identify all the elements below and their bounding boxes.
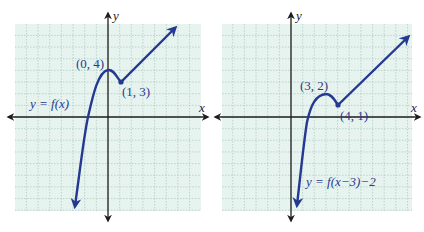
right-min-label: (4, 1) bbox=[340, 108, 368, 123]
left-x-axis-label: x bbox=[198, 100, 205, 115]
left-y-axis-label: y bbox=[111, 8, 119, 23]
right-max-label: (3, 2) bbox=[300, 78, 328, 93]
left-min-label: (1, 3) bbox=[122, 84, 150, 99]
left-max-label: (0, 4) bbox=[76, 56, 104, 71]
graphs-canvas: x y (0, 4) (1, 3) y = f(x) x y (3, 2) (4… bbox=[0, 0, 424, 232]
right-x-axis-label: x bbox=[410, 100, 417, 115]
right-graph: x y (3, 2) (4, 1) y = f(x−3)−2 bbox=[215, 8, 420, 221]
right-min-point bbox=[335, 102, 340, 107]
right-y-axis-label: y bbox=[294, 8, 302, 23]
left-graph: x y (0, 4) (1, 3) y = f(x) bbox=[8, 8, 208, 221]
right-function-label: y = f(x−3)−2 bbox=[304, 174, 376, 189]
left-function-label: y = f(x) bbox=[28, 96, 69, 111]
